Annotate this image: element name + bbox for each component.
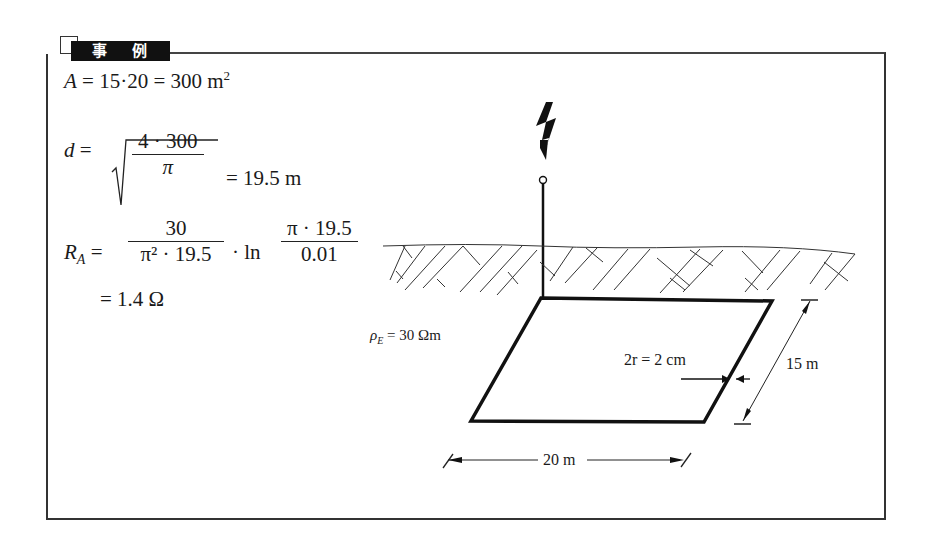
soil-resistivity-label: ρE = 30 Ωm [370,327,441,346]
conductor-diameter-label: 2r = 2 cm [624,351,686,369]
length-dimension-label: 20 m [543,451,575,469]
width-dimension-label: 15 m [786,355,818,373]
grounding-diagram [0,0,935,548]
